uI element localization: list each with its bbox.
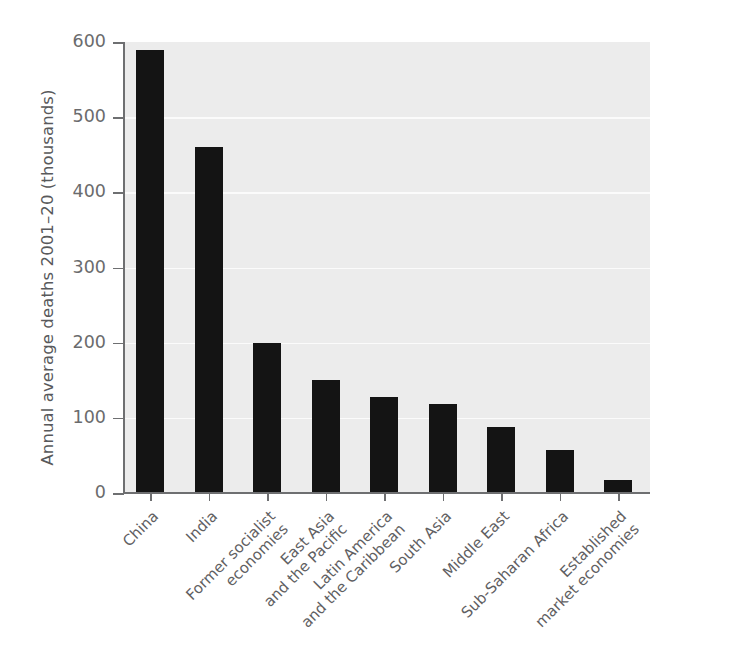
bar (487, 427, 515, 493)
bar (370, 397, 398, 493)
bar (546, 450, 574, 493)
x-axis-line (123, 492, 650, 494)
plot-area (125, 42, 650, 493)
y-tick-label: 400 (46, 183, 106, 201)
y-tick-label: 100 (46, 409, 106, 427)
x-tick-mark (209, 493, 211, 501)
bar (195, 147, 223, 493)
x-tick-mark (150, 493, 152, 501)
y-tick-mark (113, 268, 124, 270)
x-tick-mark (618, 493, 620, 501)
y-tick-mark (113, 418, 124, 420)
x-tick-mark (443, 493, 445, 501)
gridline (125, 117, 650, 119)
y-tick-label: 300 (46, 259, 106, 277)
x-tick-mark (267, 493, 269, 501)
bar (253, 343, 281, 493)
y-tick-label: 200 (46, 334, 106, 352)
x-tick-mark (560, 493, 562, 501)
x-tick-mark (384, 493, 386, 501)
y-tick-mark (113, 192, 124, 194)
bar (429, 404, 457, 493)
y-tick-mark (113, 42, 124, 44)
y-tick-mark (113, 343, 124, 345)
y-tick-label: 0 (46, 484, 106, 502)
x-tick-mark (326, 493, 328, 501)
bar (312, 380, 340, 493)
y-tick-label: 600 (46, 33, 106, 51)
x-tick-mark (501, 493, 503, 501)
y-tick-label: 500 (46, 108, 106, 126)
bar (136, 50, 164, 493)
chart-figure: Annual average deaths 2001–20 (thousands… (0, 0, 745, 671)
y-tick-mark (113, 117, 124, 119)
y-tick-mark (113, 493, 124, 495)
